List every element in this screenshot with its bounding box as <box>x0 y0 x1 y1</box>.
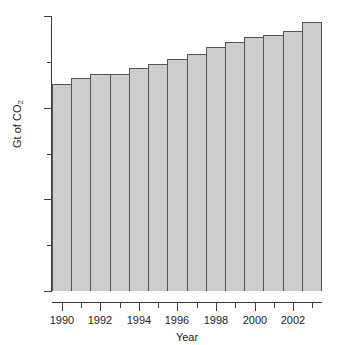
plot-area <box>52 16 322 291</box>
bar <box>90 74 110 291</box>
y-axis: 0246 Gt of CO2 <box>0 0 52 345</box>
bar <box>129 68 149 291</box>
y-tick-major <box>44 108 52 109</box>
y-tick-major <box>44 199 52 200</box>
y-axis-title-subscript: 2 <box>16 100 25 104</box>
x-tick-minor <box>81 302 82 308</box>
bar-series <box>52 16 322 291</box>
x-tick-major <box>255 302 256 311</box>
x-tick-major <box>62 302 63 311</box>
x-tick-minor <box>235 302 236 308</box>
bar <box>52 84 72 291</box>
bar <box>110 74 130 291</box>
bar-chart-figure: 0246 Gt of CO2 1990199219941996199820002… <box>0 0 340 345</box>
x-tick-major <box>293 302 294 311</box>
bar <box>148 64 168 291</box>
x-axis-title: Year <box>52 331 322 343</box>
x-tick-minor <box>120 302 121 308</box>
y-tick-major <box>44 16 52 17</box>
bar <box>187 54 207 291</box>
bar <box>302 22 322 291</box>
x-tick-minor <box>312 302 313 308</box>
x-tick-major <box>139 302 140 311</box>
bar <box>167 59 187 291</box>
bar <box>71 78 91 291</box>
x-tick-label: 1998 <box>194 315 238 326</box>
x-axis: 1990199219941996199820002002 Year <box>52 291 322 345</box>
bar <box>244 37 264 291</box>
x-tick-label: 1992 <box>78 315 122 326</box>
x-tick-label: 1996 <box>155 315 199 326</box>
bar <box>206 47 226 291</box>
x-tick-label: 2002 <box>271 315 315 326</box>
y-axis-title-text: Gt of CO <box>11 105 23 148</box>
x-tick-major <box>100 302 101 311</box>
x-tick-major <box>177 302 178 311</box>
x-axis-line <box>52 302 322 303</box>
x-tick-minor <box>274 302 275 308</box>
x-tick-major <box>216 302 217 311</box>
y-tick-major <box>44 291 52 292</box>
bar <box>225 42 245 291</box>
bar <box>263 35 283 291</box>
bar <box>283 31 303 291</box>
x-tick-minor <box>158 302 159 308</box>
x-tick-minor <box>197 302 198 308</box>
y-axis-title: Gt of CO2 <box>11 84 23 164</box>
